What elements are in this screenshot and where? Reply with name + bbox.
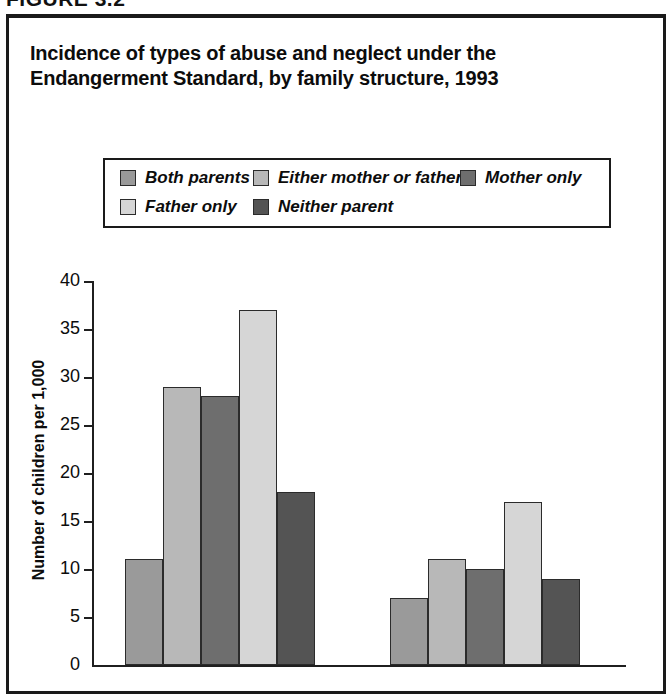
y-axis-tick-mark <box>84 281 93 283</box>
bar <box>239 310 277 665</box>
y-axis-tick-label: 15 <box>36 510 80 531</box>
bar <box>201 396 239 665</box>
y-axis-tick-label: 10 <box>36 558 80 579</box>
y-axis-tick-mark <box>84 569 93 571</box>
x-axis-line <box>92 665 626 667</box>
y-axis-tick-label: 35 <box>36 318 80 339</box>
bar <box>466 569 504 665</box>
y-axis-tick-mark <box>84 425 93 427</box>
y-axis-tick-label: 25 <box>36 414 80 435</box>
y-axis-tick-mark <box>84 617 93 619</box>
y-axis-tick-label: 20 <box>36 462 80 483</box>
y-axis-tick-mark <box>84 377 93 379</box>
bar <box>504 502 542 665</box>
y-axis-tick-label: 0 <box>36 654 80 675</box>
bar <box>163 387 201 665</box>
y-axis-tick-label: 5 <box>36 606 80 627</box>
y-axis-tick-mark <box>84 329 93 331</box>
bar <box>277 492 315 665</box>
bar <box>542 579 580 665</box>
y-axis-tick-label: 40 <box>36 270 80 291</box>
bar <box>390 598 428 665</box>
y-axis-tick-label: 30 <box>36 366 80 387</box>
bar <box>428 559 466 665</box>
y-axis-tick-mark <box>84 521 93 523</box>
y-axis-tick-mark <box>84 473 93 475</box>
bar <box>125 559 163 665</box>
